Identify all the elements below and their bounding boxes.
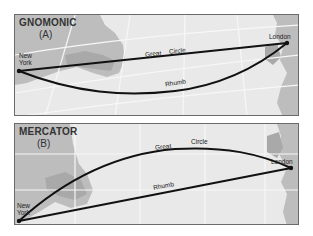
mercator-map <box>15 124 299 225</box>
destination-label: London <box>271 158 293 165</box>
origin-label-line1: New <box>19 52 32 59</box>
great-circle-label-2: Circle <box>191 138 208 145</box>
great-circle-label-2: Circle <box>169 46 186 54</box>
gnomonic-map-panel: GNOMONIC (A) New York London Great Circl… <box>14 14 299 116</box>
new-york-point <box>17 69 21 73</box>
origin-label-line2: York <box>17 209 30 216</box>
london-point <box>285 41 289 45</box>
projection-title: MERCATOR <box>19 126 77 137</box>
projection-title: GNOMONIC <box>19 17 77 28</box>
mercator-map-panel: MERCATOR (B) New York London Great Circl… <box>14 123 299 225</box>
great-circle-label-1: Great <box>145 49 162 57</box>
projection-subtitle: (A) <box>39 29 52 40</box>
europe-landmass <box>273 15 299 116</box>
london-point <box>289 166 293 170</box>
origin-label-line2: York <box>19 59 32 66</box>
projection-subtitle: (B) <box>37 138 50 149</box>
destination-label: London <box>269 33 291 40</box>
gnomonic-map <box>15 15 299 116</box>
new-york-point <box>17 219 21 223</box>
origin-label-line1: New <box>17 202 30 209</box>
